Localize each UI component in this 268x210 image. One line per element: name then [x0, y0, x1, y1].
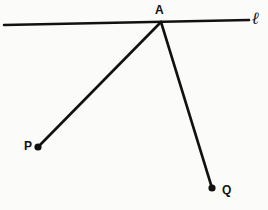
point-a-label: A: [155, 4, 164, 16]
point-q-label: Q: [222, 184, 231, 196]
point-p-dot: [34, 143, 41, 150]
point-p-label: P: [24, 140, 32, 152]
point-q-dot: [208, 184, 215, 191]
line-l: [4, 20, 249, 25]
ray-a-to-p: [38, 22, 161, 147]
geometry-canvas: [0, 0, 268, 210]
line-l-label: ℓ: [252, 10, 259, 27]
ray-a-to-q: [161, 22, 212, 188]
geometry-figure: A P Q ℓ: [0, 0, 268, 210]
